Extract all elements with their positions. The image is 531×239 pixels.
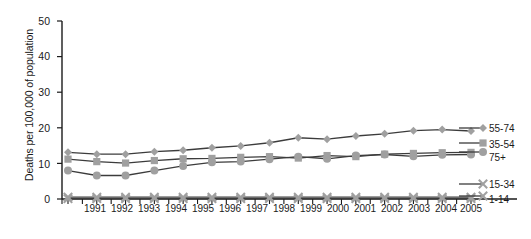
data-point-75plus <box>438 151 446 159</box>
data-point-35-54 <box>122 159 129 166</box>
data-point-75plus <box>266 155 274 163</box>
data-point-55-74 <box>208 144 216 152</box>
data-point-75plus <box>381 151 389 159</box>
chart-container: Deaths per 100,000 of population 50 40 3… <box>0 0 531 239</box>
data-point-75plus <box>64 167 72 175</box>
data-point-35-54 <box>64 156 71 163</box>
data-point-75plus <box>179 162 187 170</box>
data-point-55-74 <box>323 135 331 143</box>
data-point-55-74 <box>150 148 158 156</box>
data-point-75plus <box>323 155 331 163</box>
legend-label-15-34: 15-34 <box>489 179 515 190</box>
data-point-75plus <box>122 172 130 180</box>
data-point-35-54 <box>93 158 100 165</box>
legend-marker-0 <box>479 124 487 132</box>
legend-marker-2 <box>479 148 487 156</box>
data-point-75plus <box>208 158 216 166</box>
data-point-55-74 <box>179 146 187 154</box>
data-point-75plus <box>150 167 158 175</box>
data-point-55-74 <box>266 139 274 147</box>
data-point-55-74 <box>352 132 360 140</box>
legend-label-1-14: 1-14 <box>489 194 509 205</box>
data-point-55-74 <box>294 134 302 142</box>
legend-label-75plus: 75+ <box>489 152 506 163</box>
legend-label-35-54: 35-54 <box>489 139 515 150</box>
x-tick-label: 2005 <box>451 203 491 214</box>
data-point-55-74 <box>237 142 245 150</box>
data-point-75plus <box>352 152 360 160</box>
data-point-55-74 <box>438 126 446 134</box>
data-point-75plus <box>93 172 101 180</box>
data-point-55-74 <box>64 148 72 156</box>
data-point-75plus <box>294 153 302 161</box>
data-point-55-74 <box>93 150 101 158</box>
legend-label-55-74: 55-74 <box>489 123 515 134</box>
data-point-55-74 <box>409 127 417 135</box>
data-point-75plus <box>409 152 417 160</box>
data-point-75plus <box>237 158 245 166</box>
data-point-35-54 <box>180 155 187 162</box>
data-point-55-74 <box>122 150 130 158</box>
data-point-35-54 <box>151 157 158 164</box>
data-point-55-74 <box>381 130 389 138</box>
legend-marker-1 <box>479 139 486 146</box>
